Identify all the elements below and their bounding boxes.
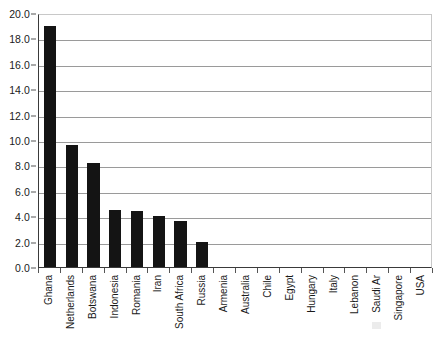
x-axis-tick-label: Botswana <box>88 275 98 319</box>
x-axis-label-slot: Indonesia <box>104 273 126 342</box>
x-axis-tick-mark <box>432 268 433 273</box>
x-axis-tick-label: South Africa <box>175 275 185 329</box>
plot-area <box>38 14 432 268</box>
x-axis-label-slot: Australia <box>235 273 257 342</box>
x-axis-tick-label: Ghana <box>44 275 54 305</box>
bar-slot <box>213 15 235 267</box>
x-axis-tick-label: Hungary <box>307 275 317 313</box>
x-axis-tick-label: Egypt <box>285 275 295 301</box>
y-axis-tick-label: 2.0 <box>15 238 30 248</box>
x-axis-label-slot: USA <box>410 273 432 342</box>
bar-chart: 0.02.04.06.08.010.012.014.016.018.020.0 … <box>0 0 440 342</box>
bar-slot <box>300 15 322 267</box>
y-axis-tick-label: 12.0 <box>9 111 30 121</box>
x-axis-label-slot: Botswana <box>82 273 104 342</box>
y-axis-tick-mark <box>31 141 36 142</box>
x-axis-label-slot: Egypt <box>279 273 301 342</box>
y-axis-tick-label: 18.0 <box>9 34 30 44</box>
bar <box>66 145 78 267</box>
bar-slot <box>366 15 388 267</box>
x-axis-label-slot: South Africa <box>169 273 191 342</box>
x-axis-tick-label: Netherlands <box>66 275 76 329</box>
bar-slot <box>39 15 61 267</box>
bar-slot <box>148 15 170 267</box>
bar-slot <box>344 15 366 267</box>
x-axis-label-slot: Iran <box>147 273 169 342</box>
x-axis-tick-label: Armenia <box>219 275 229 312</box>
x-axis-label-slot: Lebanon <box>344 273 366 342</box>
y-axis-tick-mark <box>31 191 36 192</box>
y-axis-tick-mark <box>31 166 36 167</box>
x-axis-label-slot: Italy <box>323 273 345 342</box>
x-axis-label-slot: Saudi Ar <box>366 273 388 342</box>
y-axis-tick-label: 4.0 <box>15 212 30 222</box>
bar-slot <box>191 15 213 267</box>
y-axis-tick-mark <box>31 242 36 243</box>
bar-slot <box>61 15 83 267</box>
bar <box>153 216 165 267</box>
bar-slot <box>104 15 126 267</box>
x-axis-label-slot: Hungary <box>301 273 323 342</box>
x-axis-labels: GhanaNetherlandsBotswanaIndonesiaRomania… <box>38 273 432 342</box>
x-axis-label-slot: Armenia <box>213 273 235 342</box>
x-axis-tick-label: Iran <box>153 275 163 292</box>
y-axis-tick-mark <box>31 90 36 91</box>
bar <box>196 242 208 267</box>
y-axis-tick-mark <box>31 14 36 15</box>
y-axis-tick-mark <box>31 115 36 116</box>
x-axis-label-slot: Chile <box>257 273 279 342</box>
bar-slot <box>170 15 192 267</box>
y-axis-tick-mark <box>31 39 36 40</box>
y-axis-tick-mark <box>31 64 36 65</box>
x-axis-label-slot: Romania <box>126 273 148 342</box>
bar-series <box>39 15 431 267</box>
x-axis-label-slot: Ghana <box>38 273 60 342</box>
y-axis-tick-label: 20.0 <box>9 9 30 19</box>
bar <box>109 210 121 267</box>
y-axis-tick-mark <box>31 217 36 218</box>
y-axis-tick-label: 10.0 <box>9 136 30 146</box>
bar-slot <box>409 15 431 267</box>
scan-artifact <box>372 322 381 329</box>
y-axis-tick-label: 0.0 <box>15 263 30 273</box>
x-axis-tick-label: Chile <box>263 275 273 298</box>
bar-slot <box>388 15 410 267</box>
x-axis-tick-label: Saudi Ar <box>372 275 382 313</box>
y-axis-tick-mark <box>31 268 36 269</box>
y-axis: 0.02.04.06.08.010.012.014.016.018.020.0 <box>0 0 36 342</box>
bar <box>131 211 143 267</box>
x-axis-tick-label: Lebanon <box>350 275 360 314</box>
x-axis-label-slot: Singapore <box>388 273 410 342</box>
x-axis-tick-label: Indonesia <box>110 275 120 318</box>
bar <box>174 221 186 267</box>
x-axis-tick-label: Singapore <box>394 275 404 321</box>
bar-slot <box>235 15 257 267</box>
x-axis-tick-label: Australia <box>241 275 251 314</box>
x-axis-label-slot: Netherlands <box>60 273 82 342</box>
x-axis-tick-label: USA <box>416 275 426 296</box>
x-axis-label-slot: Russia <box>191 273 213 342</box>
bar-slot <box>126 15 148 267</box>
bar-slot <box>279 15 301 267</box>
y-axis-tick-label: 6.0 <box>15 187 30 197</box>
x-axis-tick-label: Russia <box>197 275 207 306</box>
x-axis-tick-label: Italy <box>329 275 339 293</box>
bar <box>87 163 99 267</box>
y-axis-tick-label: 8.0 <box>15 161 30 171</box>
y-axis-tick-label: 16.0 <box>9 60 30 70</box>
bar-slot <box>257 15 279 267</box>
bar <box>44 26 56 267</box>
bar-slot <box>322 15 344 267</box>
x-axis-tick-label: Romania <box>132 275 142 315</box>
bar-slot <box>83 15 105 267</box>
y-axis-tick-label: 14.0 <box>9 85 30 95</box>
